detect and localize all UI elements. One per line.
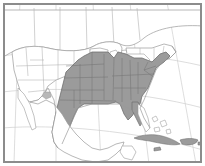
map-frame-border (3, 3, 202, 163)
jamaica-island (154, 147, 161, 151)
north-america-map[interactable] (4, 4, 201, 162)
bahamas-island (154, 127, 160, 132)
bahamas-island (166, 129, 171, 134)
map-figure (0, 0, 205, 166)
